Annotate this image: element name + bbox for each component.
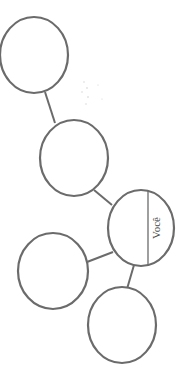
edge-voce-node4	[87, 252, 113, 262]
voce-label: Você	[150, 217, 162, 239]
edge-node1-node2	[45, 92, 55, 123]
empty-circle-node-1	[0, 17, 68, 93]
empty-circle-node-5	[88, 287, 156, 363]
edge-node2-voce	[94, 190, 112, 205]
relationship-diagram: Você	[0, 0, 184, 369]
empty-circle-node-4	[18, 233, 88, 309]
empty-circle-node-2	[40, 120, 108, 196]
edge-voce-node5	[127, 265, 134, 289]
voce-circle-node	[108, 190, 174, 266]
